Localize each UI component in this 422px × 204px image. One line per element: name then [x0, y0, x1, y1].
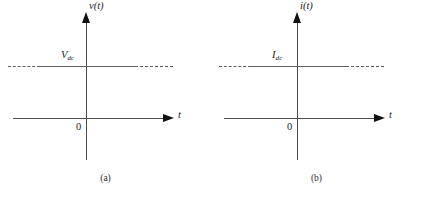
time-axis [13, 118, 165, 119]
panel-voltage: v(t) Vdc t 0 (a) [0, 0, 211, 204]
figure-caption [0, 195, 422, 204]
vertical-axis [86, 18, 87, 160]
vertical-axis-arrow-icon [82, 12, 90, 23]
origin-label: 0 [287, 122, 292, 133]
dc-level-label: Vdc [61, 50, 74, 62]
dc-level-solid [249, 66, 348, 67]
signal-axis-label: i(t) [300, 1, 313, 12]
panel-sublabel: (b) [211, 173, 422, 183]
signal-axis-label: v(t) [89, 1, 104, 12]
figure-dc-waveforms: v(t) Vdc t 0 (a) i(t) Idc t 0 (b) [0, 0, 422, 204]
panel-current: i(t) Idc t 0 (b) [211, 0, 422, 204]
time-axis-arrow-icon [163, 114, 174, 122]
time-axis-arrow-icon [374, 114, 385, 122]
time-axis [224, 118, 376, 119]
dc-level-dashed-right [135, 66, 173, 67]
origin-label: 0 [76, 122, 81, 133]
dc-level-dashed-left [8, 66, 40, 67]
dc-level-dashed-right [346, 66, 384, 67]
dc-level-subscript: dc [67, 54, 74, 62]
vertical-axis [297, 18, 298, 160]
dc-level-dashed-left [219, 66, 251, 67]
time-axis-label: t [178, 110, 181, 121]
dc-level-label: Idc [272, 50, 283, 62]
dc-level-solid [38, 66, 137, 67]
vertical-axis-arrow-icon [293, 12, 301, 23]
time-axis-label: t [389, 110, 392, 121]
dc-level-subscript: dc [276, 54, 283, 62]
panel-sublabel: (a) [0, 173, 211, 183]
